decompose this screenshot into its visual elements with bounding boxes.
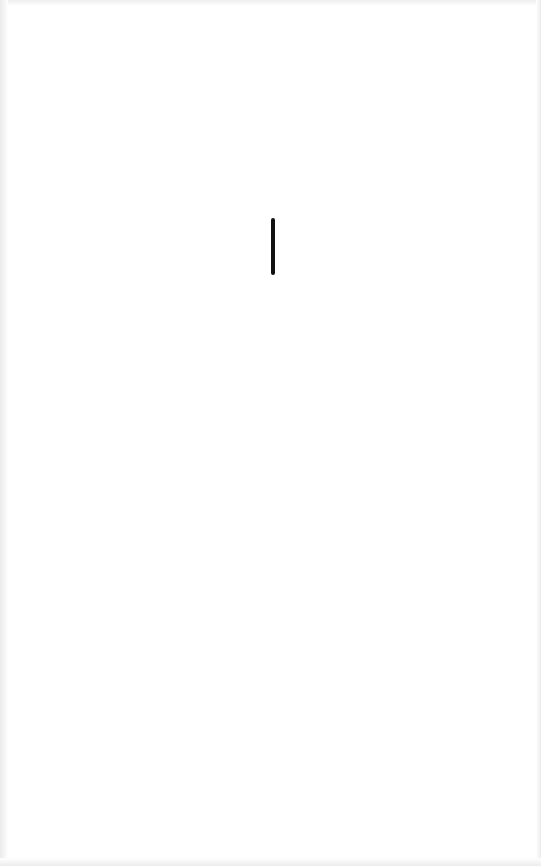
text-cursor-icon [271, 218, 275, 275]
blank-content-area[interactable] [8, 6, 536, 858]
bottom-edge [0, 858, 541, 866]
app-screen: blank [0, 0, 541, 866]
right-edge [536, 0, 541, 866]
left-edge [0, 0, 8, 866]
